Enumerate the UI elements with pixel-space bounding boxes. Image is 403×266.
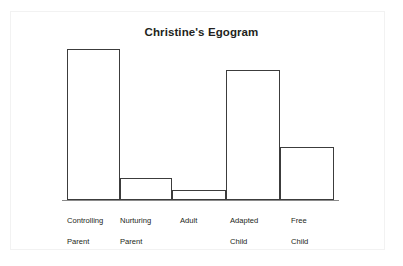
tick-label-adapted-child: Adapted Child bbox=[230, 205, 282, 247]
bar-adapted-child bbox=[226, 70, 280, 200]
tick-label-line-2: Parent bbox=[67, 237, 89, 246]
bar-controlling-parent bbox=[67, 49, 120, 200]
bar-adult bbox=[172, 190, 226, 200]
x-axis-tick-labels: Controlling Parent Nurturing Parent Adul… bbox=[67, 205, 357, 245]
x-axis-line bbox=[62, 200, 339, 201]
tick-label-nurturing-parent: Nurturing Parent bbox=[120, 205, 172, 247]
tick-label-line-2: Child bbox=[230, 237, 247, 246]
tick-label-line-2: Child bbox=[291, 237, 308, 246]
tick-label-adult: Adult bbox=[180, 205, 230, 226]
tick-label-free-child: Free Child bbox=[291, 205, 341, 247]
tick-label-line-1: Adapted bbox=[230, 216, 258, 225]
tick-label-line-1: Controlling bbox=[67, 216, 103, 225]
plot-area bbox=[67, 40, 334, 200]
egogram-figure: Christine's Egogram Controlling Parent N… bbox=[0, 0, 403, 266]
chart-title: Christine's Egogram bbox=[0, 26, 403, 38]
bar-nurturing-parent bbox=[120, 178, 172, 200]
tick-label-line-2: Parent bbox=[120, 237, 142, 246]
tick-label-line-1: Nurturing bbox=[120, 216, 151, 225]
tick-label-line-1: Free bbox=[291, 216, 307, 225]
tick-label-line-1: Adult bbox=[180, 216, 197, 225]
bar-free-child bbox=[280, 147, 334, 200]
tick-label-controlling-parent: Controlling Parent bbox=[67, 205, 119, 247]
